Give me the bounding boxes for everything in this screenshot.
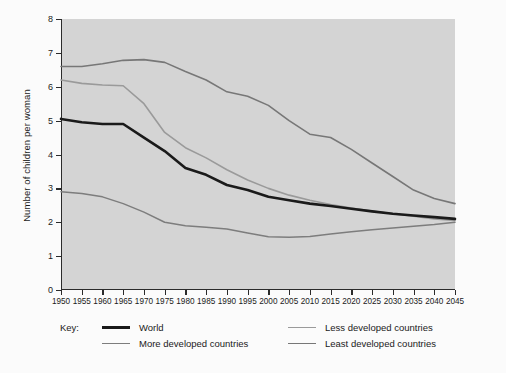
y-tick-label-6: 6 [48, 82, 53, 92]
x-tick-label-1955: 1955 [73, 297, 91, 306]
x-tick-label-1970: 1970 [135, 297, 153, 306]
x-tick-2005 [289, 290, 290, 295]
x-tick-label-1995: 1995 [239, 297, 257, 306]
y-tick-label-7: 7 [48, 48, 53, 58]
x-tick-2040 [434, 290, 435, 295]
y-tick-label-4: 4 [48, 150, 53, 160]
x-tick-1955 [82, 290, 83, 295]
y-tick-label-0: 0 [48, 285, 53, 295]
series-lines [61, 19, 455, 290]
legend-label-least-developed: Least developed countries [325, 338, 436, 349]
x-tick-2045 [455, 290, 456, 295]
x-tick-label-2020: 2020 [342, 297, 360, 306]
x-tick-1990 [227, 290, 228, 295]
x-tick-label-2045: 2045 [446, 297, 464, 306]
x-tick-1960 [102, 290, 103, 295]
legend-swatch-more-developed [102, 343, 130, 345]
x-tick-label-1965: 1965 [114, 297, 132, 306]
legend-item-more-developed: More developed countries [102, 338, 288, 349]
y-tick-label-3: 3 [48, 183, 53, 193]
x-tick-label-1990: 1990 [218, 297, 236, 306]
legend-item-less-developed: Less developed countries [288, 322, 460, 333]
x-tick-label-2030: 2030 [384, 297, 402, 306]
x-tick-1950 [61, 290, 62, 295]
x-tick-1985 [206, 290, 207, 295]
x-tick-2035 [414, 290, 415, 295]
x-tick-1970 [144, 290, 145, 295]
x-tick-label-2000: 2000 [259, 297, 277, 306]
x-tick-label-2010: 2010 [301, 297, 319, 306]
x-tick-1965 [123, 290, 124, 295]
x-tick-label-2015: 2015 [321, 297, 339, 306]
chart-legend: Key: World Less developed countries More… [60, 322, 460, 349]
legend-label-more-developed: More developed countries [139, 338, 248, 349]
legend-label-less-developed: Less developed countries [325, 322, 433, 333]
x-tick-2000 [268, 290, 269, 295]
x-tick-2030 [393, 290, 394, 295]
y-tick-label-8: 8 [48, 14, 53, 24]
x-tick-2020 [351, 290, 352, 295]
legend-swatch-least-developed [288, 343, 316, 345]
x-tick-label-2005: 2005 [280, 297, 298, 306]
x-tick-label-1980: 1980 [176, 297, 194, 306]
x-tick-label-2035: 2035 [404, 297, 422, 306]
x-tick-1980 [185, 290, 186, 295]
x-tick-label-1950: 1950 [52, 297, 70, 306]
x-tick-2010 [310, 290, 311, 295]
legend-item-world: World [102, 322, 288, 333]
x-tick-label-2025: 2025 [363, 297, 381, 306]
series-line-world [61, 119, 455, 219]
y-tick-label-5: 5 [48, 116, 53, 126]
legend-swatch-less-developed [288, 327, 316, 329]
x-tick-1995 [248, 290, 249, 295]
legend-swatch-world [102, 326, 130, 329]
plot-area: 012345678 195019551960196519701975198019… [61, 19, 455, 290]
x-tick-label-2040: 2040 [425, 297, 443, 306]
y-axis-title: Number of children per woman [21, 56, 32, 256]
x-tick-1975 [165, 290, 166, 295]
x-tick-label-1960: 1960 [93, 297, 111, 306]
y-tick-label-2: 2 [48, 217, 53, 227]
series-line-least-developed-countries [61, 60, 455, 204]
legend-label-world: World [139, 322, 164, 333]
x-tick-2025 [372, 290, 373, 295]
x-tick-2015 [331, 290, 332, 295]
fertility-line-chart: Number of children per woman 012345678 1… [0, 0, 506, 373]
legend-item-least-developed: Least developed countries [288, 338, 460, 349]
x-tick-label-1985: 1985 [197, 297, 215, 306]
y-tick-label-1: 1 [48, 251, 53, 261]
x-tick-label-1975: 1975 [156, 297, 174, 306]
legend-key-label: Key: [60, 322, 102, 333]
